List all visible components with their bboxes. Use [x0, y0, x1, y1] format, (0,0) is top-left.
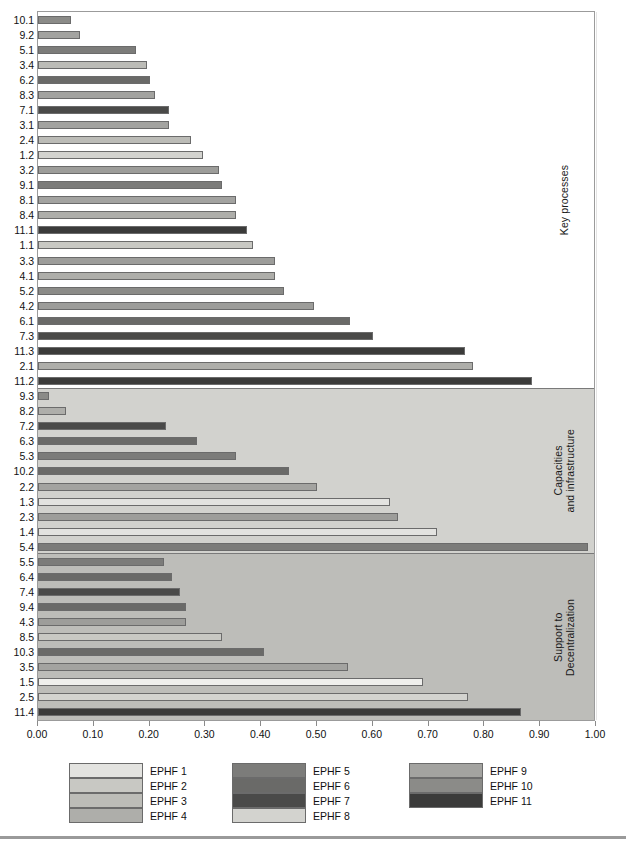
y-tick-label: 11.2	[14, 375, 34, 387]
bar	[38, 452, 236, 460]
x-axis-tick-label: 0.50	[306, 728, 326, 740]
bar	[38, 46, 136, 54]
bar	[38, 196, 236, 204]
y-tick-label: 3.1	[19, 119, 34, 131]
bar-row: 7.3	[38, 328, 594, 343]
bar-row: 11.1	[38, 223, 594, 238]
y-tick-label: 4.3	[19, 616, 34, 628]
y-tick-label: 7.1	[19, 104, 34, 116]
bar	[38, 588, 180, 596]
bar	[38, 362, 473, 370]
bar	[38, 302, 314, 310]
legend-item: EPHF 3	[69, 793, 187, 808]
legend-label: EPHF 1	[150, 765, 187, 777]
bar-row: 1.5	[38, 675, 594, 690]
chart-group-band: Support to Decentralization5.56.47.49.44…	[38, 554, 594, 720]
legend-label: EPHF 4	[150, 810, 187, 822]
y-tick-label: 2.4	[19, 134, 34, 146]
y-tick-label: 8.2	[19, 405, 34, 417]
bar-row: 7.2	[38, 419, 594, 434]
legend-swatch	[232, 808, 306, 823]
bar-row: 3.4	[38, 57, 594, 72]
chart-group-band: Key processes10.19.25.13.46.28.37.13.12.…	[38, 12, 594, 389]
bar	[38, 31, 80, 39]
bar-row: 1.4	[38, 524, 594, 539]
bar-row: 8.1	[38, 193, 594, 208]
x-axis-tick	[428, 721, 429, 726]
bar	[38, 618, 186, 626]
y-tick-label: 1.3	[19, 496, 34, 508]
x-axis-tick	[37, 721, 38, 726]
bar	[38, 377, 532, 385]
bar-row: 7.1	[38, 102, 594, 117]
legend-label: EPHF 6	[313, 780, 350, 792]
legend-item: EPHF 6	[232, 778, 350, 793]
y-tick-label: 3.3	[19, 255, 34, 267]
bar	[38, 498, 390, 506]
plot-area: Key processes10.19.25.13.46.28.37.13.12.…	[37, 11, 595, 721]
bar-row: 2.5	[38, 690, 594, 705]
bar	[38, 106, 169, 114]
bar-row: 3.2	[38, 163, 594, 178]
legend-item: EPHF 7	[232, 793, 350, 808]
bar	[38, 76, 150, 84]
legend-label: EPHF 8	[313, 810, 350, 822]
bar-row: 10.2	[38, 464, 594, 479]
y-tick-label: 3.2	[19, 164, 34, 176]
legend-swatch	[409, 763, 483, 778]
y-tick-label: 9.4	[19, 601, 34, 613]
legend-swatch	[232, 793, 306, 808]
y-tick-label: 6.3	[19, 435, 34, 447]
x-axis-tick	[149, 721, 150, 726]
legend-swatch	[409, 793, 483, 808]
legend-column-1: EPHF 1EPHF 2EPHF 3EPHF 4	[69, 763, 187, 823]
bar	[38, 437, 197, 445]
bar-row: 6.2	[38, 72, 594, 87]
bar-row: 8.4	[38, 208, 594, 223]
legend-label: EPHF 2	[150, 780, 187, 792]
bar	[38, 633, 222, 641]
y-tick-label: 3.4	[19, 59, 34, 71]
bar	[38, 558, 164, 566]
legend-swatch	[232, 763, 306, 778]
bar-row: 3.1	[38, 117, 594, 132]
bar	[38, 513, 398, 521]
legend-item: EPHF 1	[69, 763, 187, 778]
y-tick-label: 5.3	[19, 450, 34, 462]
bar-row: 8.2	[38, 404, 594, 419]
chart-group-band: Capacities and infrastructure9.38.27.26.…	[38, 389, 594, 555]
bar	[38, 211, 236, 219]
bar	[38, 151, 203, 159]
bar	[38, 257, 275, 265]
y-tick-label: 9.2	[19, 29, 34, 41]
y-tick-label: 2.1	[19, 360, 34, 372]
bar-row: 11.4	[38, 705, 594, 720]
bar-row: 9.3	[38, 389, 594, 404]
bar	[38, 648, 264, 656]
x-axis-tick-label: 0.20	[138, 728, 158, 740]
y-tick-label: 8.1	[19, 194, 34, 206]
x-axis-tick-label: 0.40	[250, 728, 270, 740]
x-axis-tick	[260, 721, 261, 726]
legend-swatch	[69, 808, 143, 823]
bar	[38, 603, 186, 611]
bar-row: 6.4	[38, 569, 594, 584]
bar-row: 9.1	[38, 178, 594, 193]
y-tick-label: 8.5	[19, 631, 34, 643]
y-tick-label: 11.1	[14, 224, 34, 236]
y-tick-label: 5.5	[19, 556, 34, 568]
y-tick-label: 1.1	[19, 239, 34, 251]
bar-row: 6.1	[38, 313, 594, 328]
bar-row: 9.2	[38, 27, 594, 42]
y-tick-label: 4.1	[19, 270, 34, 282]
legend-item: EPHF 8	[232, 808, 350, 823]
bar	[38, 91, 155, 99]
bar-row: 8.3	[38, 87, 594, 102]
x-axis-tick	[539, 721, 540, 726]
bar-row: 1.3	[38, 494, 594, 509]
x-axis-tick	[204, 721, 205, 726]
y-tick-label: 10.3	[14, 646, 34, 658]
bar	[38, 392, 49, 400]
gridline	[596, 12, 597, 720]
x-axis-tick	[595, 721, 596, 726]
